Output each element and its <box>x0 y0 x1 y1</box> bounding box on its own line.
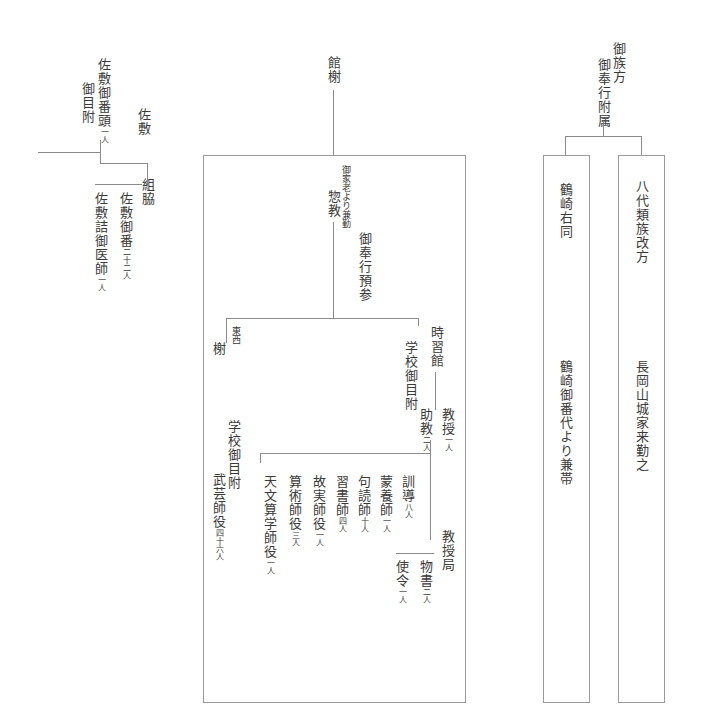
connector <box>430 440 431 540</box>
bureau-messenger: 使令一人 <box>394 560 409 604</box>
connector <box>260 453 430 454</box>
staff-count: 八人 <box>403 503 412 519</box>
tsurusaki-top: 鶴崎右同 <box>558 183 573 239</box>
sashiki-heading: 佐敷 <box>136 108 151 136</box>
sashiki-head-title: 佐敷御番頭一人 <box>96 58 111 144</box>
professor: 教授一人 <box>440 408 455 452</box>
staff-title: 故実師役 <box>311 475 326 531</box>
connector <box>226 318 418 319</box>
connector <box>565 136 642 137</box>
staff-count: 一人 <box>397 588 406 604</box>
sashiki-head-title-text: 佐敷御番頭 <box>96 58 111 128</box>
east-metsuke: 学校御目附 <box>226 420 241 490</box>
sashiki-guard: 佐敷御番二十二人 <box>118 192 133 280</box>
connector <box>435 372 436 410</box>
connector <box>333 90 334 155</box>
staff-tenmon: 天文算学師役一人 <box>262 475 277 575</box>
yatsushiro-top: 八代類族改方 <box>634 180 649 264</box>
budo-instructors: 武芸師役四十六人 <box>211 473 226 561</box>
connector <box>100 140 101 164</box>
staff-title: 教授 <box>440 408 455 436</box>
staff-count: 一人 <box>265 559 274 575</box>
staff-title: 助教 <box>418 408 433 436</box>
connector <box>95 184 142 185</box>
connector <box>396 553 434 554</box>
connector <box>565 136 566 156</box>
chief-note: 御家老より兼勤 <box>341 165 351 228</box>
staff-count: 一人 <box>381 517 390 533</box>
gozokukata-heading: 御族方 <box>611 42 626 84</box>
staff-count: 二人 <box>421 588 430 604</box>
staff-title: 天文算学師役 <box>262 475 277 559</box>
connector <box>226 318 227 343</box>
tsurusaki-bottom: 鶴崎御番代より兼帯 <box>558 360 573 486</box>
staff-count: 一人 <box>443 436 452 452</box>
kumiwaki: 組脇 <box>140 178 155 206</box>
east-west-label: 東西 <box>231 326 241 344</box>
chief-title: 惣教 <box>326 190 341 218</box>
kyoju-kyoku: 教授局 <box>440 530 455 572</box>
member-title: 佐敷詰御医師 <box>93 192 108 276</box>
connector <box>603 122 604 137</box>
staff-count: 四十六人 <box>214 529 223 561</box>
member-count: 二十二人 <box>121 248 130 280</box>
staff-title: 算術師役 <box>287 475 302 531</box>
staff-title: 蒙養師 <box>378 475 393 517</box>
staff-title: 習書師 <box>334 475 349 517</box>
sashiki-doctor: 佐敷詰御医師一人 <box>93 192 108 292</box>
member-title: 佐敷御番 <box>118 192 133 248</box>
staff-title: 句読師 <box>356 475 371 517</box>
bureau-clerk: 物書二人 <box>418 560 433 604</box>
staff-count: 二人 <box>421 436 430 452</box>
jishukan: 時習館 <box>429 326 444 368</box>
staff-sanjutsu: 算術師役三人 <box>287 475 302 547</box>
chief-sub: 御奉行預参 <box>357 232 372 302</box>
staff-count: 三人 <box>290 531 299 547</box>
staff-count: 一人 <box>314 531 323 547</box>
staff-moyoshi: 蒙養師一人 <box>378 475 393 533</box>
staff-kutoshi: 句読師十人 <box>356 475 371 533</box>
staff-shushoshi: 習書師四人 <box>334 475 349 533</box>
connector <box>100 163 147 164</box>
sashiki-metsuke: 御目附 <box>80 82 95 124</box>
member-count: 一人 <box>96 276 105 292</box>
east-west-unit: 榭 <box>211 342 226 356</box>
connector <box>333 222 334 318</box>
connector <box>641 136 642 156</box>
staff-title: 武芸師役 <box>211 473 226 529</box>
kansha-heading: 館榭 <box>326 56 341 84</box>
bugyo-fuzoku: 御奉行附属 <box>596 58 611 128</box>
connector <box>38 152 101 153</box>
connector <box>260 453 261 463</box>
staff-count: 四人 <box>337 517 346 533</box>
staff-title: 使令 <box>394 560 409 588</box>
staff-kundo: 訓導八人 <box>400 475 415 519</box>
jishukan-metsuke: 学校御目附 <box>403 341 418 411</box>
staff-title: 物書 <box>418 560 433 588</box>
staff-count: 十人 <box>359 517 368 533</box>
connector <box>418 318 419 326</box>
yatsushiro-bottom: 長岡山城家来勤之 <box>634 360 649 472</box>
staff-kojitsu: 故実師役一人 <box>311 475 326 547</box>
staff-title: 訓導 <box>400 475 415 503</box>
